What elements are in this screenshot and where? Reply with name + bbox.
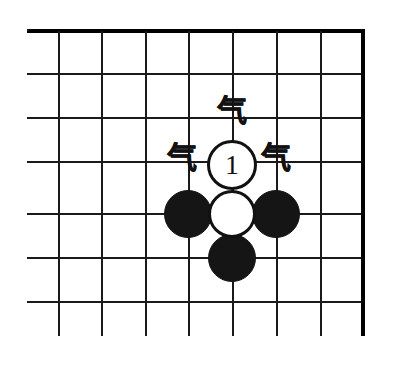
white-stone-center[interactable] — [208, 190, 256, 238]
grid-vline-2 — [58, 31, 60, 336]
black-stone-left[interactable] — [164, 190, 212, 238]
board-edge-right — [361, 29, 365, 336]
white-stone-move-1[interactable]: 1 — [207, 140, 257, 190]
go-diagram-figure: 1 气 气 气 — [0, 0, 395, 365]
liberty-label-left: 气 — [167, 143, 197, 173]
board-edge-top — [27, 29, 365, 33]
grid-hline-6 — [27, 257, 363, 259]
board-edge-left — [27, 29, 29, 31]
grid-vline-5 — [188, 31, 190, 336]
move-number-label: 1 — [210, 143, 254, 187]
grid-hline-2 — [27, 73, 363, 75]
grid-hline-3 — [27, 117, 363, 119]
black-stone-below[interactable] — [208, 234, 256, 282]
grid-vline-8 — [320, 31, 322, 336]
grid-vline-7 — [276, 31, 278, 336]
grid-vline-3 — [101, 31, 103, 336]
grid-vline-4 — [145, 31, 147, 336]
go-board: 1 气 气 气 — [0, 0, 395, 365]
grid-hline-7 — [27, 301, 363, 303]
liberty-label-top: 气 — [217, 96, 247, 126]
black-stone-right[interactable] — [252, 190, 300, 238]
liberty-label-right: 气 — [261, 143, 291, 173]
